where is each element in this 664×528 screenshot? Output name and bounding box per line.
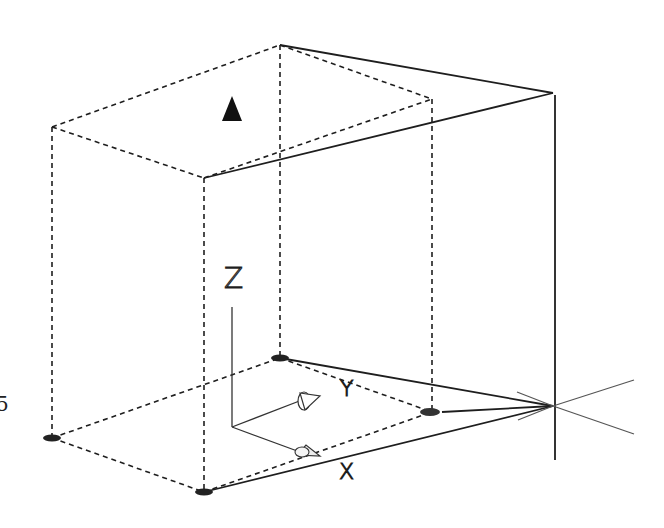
- box-top-face: [52, 45, 432, 178]
- x-axis-cone-icon: [295, 445, 320, 457]
- y-axis-cone-icon: [298, 392, 320, 410]
- x-axis-label: X: [339, 459, 354, 484]
- perspective-lines-bottom: [204, 358, 553, 492]
- box-bottom-face: [52, 358, 432, 492]
- target-triangle-icon: [222, 96, 242, 121]
- z-axis-label: Z: [224, 262, 243, 295]
- y-axis-label: Y: [340, 376, 353, 401]
- cad-viewport: Z Y X: [0, 0, 664, 528]
- ucs-icon: [232, 307, 320, 457]
